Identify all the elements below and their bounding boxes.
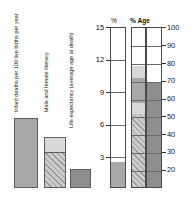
right-tick-30: 30 xyxy=(167,148,175,155)
age-hatched-segment-light-lower xyxy=(132,103,145,114)
bar-life-expectancy xyxy=(70,169,91,188)
left-tick-9: 9 xyxy=(92,89,104,96)
right-tickmark-100 xyxy=(162,27,166,28)
scale-header-percent-age: % Age xyxy=(130,17,150,24)
bar-label-infant-deaths: Infant deaths per 100 live births per ye… xyxy=(13,26,19,112)
right-tick-80: 80 xyxy=(167,60,175,67)
right-tickmark-30 xyxy=(162,152,166,153)
bar-literacy xyxy=(44,137,66,188)
age-solid-gridline-40 xyxy=(147,135,161,136)
age-hatched-gridline-20 xyxy=(132,171,145,172)
percent-scale-column xyxy=(110,27,126,188)
right-tickmark-80 xyxy=(162,63,166,64)
age-distribution-hatched-column xyxy=(131,27,146,188)
age-solid-gridline-50 xyxy=(147,117,161,118)
percent-gridline-9 xyxy=(111,92,125,93)
right-scale-chart: % % Age 15 12 9 6 3 xyxy=(96,0,192,200)
right-tick-90: 90 xyxy=(167,42,175,49)
age-hatched-gridline-90 xyxy=(132,46,145,47)
age-solid-gridline-90 xyxy=(147,46,161,47)
percent-gridline-12 xyxy=(111,60,125,61)
age-hatched-segment-light-upper xyxy=(132,66,145,79)
age-solid-gridline-30 xyxy=(147,153,161,154)
right-tick-50: 50 xyxy=(167,113,175,120)
right-tick-60: 60 xyxy=(167,95,175,102)
age-hatched-gridline-80 xyxy=(132,64,145,65)
chart-figure: Infant deaths per 100 live births per ye… xyxy=(0,0,192,200)
right-tickmark-50 xyxy=(162,116,166,117)
left-tick-6: 6 xyxy=(92,121,104,128)
bar-literacy-segment-lower xyxy=(44,152,66,188)
bar-label-life-expectancy: Life expectancy (average age at death) xyxy=(68,42,74,128)
bar-infant-deaths xyxy=(14,118,38,188)
right-tickmark-70 xyxy=(162,81,166,82)
age-solid-gridline-20 xyxy=(147,171,161,172)
right-tick-70: 70 xyxy=(167,77,175,84)
age-hatched-gridline-40 xyxy=(132,135,145,136)
left-tick-3: 3 xyxy=(92,154,104,161)
right-tickmark-20 xyxy=(162,170,166,171)
age-solid-segment-white xyxy=(147,28,161,82)
percent-gridline-3 xyxy=(111,157,125,158)
right-tickmark-40 xyxy=(162,134,166,135)
bar-literacy-segment-upper xyxy=(44,137,66,153)
age-hatched-gridline-70 xyxy=(132,82,145,83)
right-tick-100: 100 xyxy=(167,24,179,31)
age-hatched-segment-hatch xyxy=(132,114,145,187)
left-tick-15: 15 xyxy=(92,24,104,31)
left-tick-12: 12 xyxy=(92,56,104,63)
scale-header-percent: % xyxy=(111,17,117,24)
age-hatched-gridline-30 xyxy=(132,153,145,154)
age-hatched-segment-top-white xyxy=(132,28,145,66)
age-hatched-gridline-50 xyxy=(132,117,145,118)
percent-column-fill xyxy=(111,162,125,187)
age-distribution-solid-column xyxy=(146,27,162,188)
left-bar-chart: Infant deaths per 100 live births per ye… xyxy=(0,0,96,200)
age-solid-gridline-80 xyxy=(147,64,161,65)
right-tick-40: 40 xyxy=(167,131,175,138)
age-hatched-gridline-60 xyxy=(132,100,145,101)
right-tick-20: 20 xyxy=(167,166,175,173)
bar-label-literacy: Male and female literacy xyxy=(43,26,49,112)
right-tickmark-60 xyxy=(162,99,166,100)
right-tickmark-90 xyxy=(162,45,166,46)
age-solid-gridline-70 xyxy=(147,82,161,83)
age-solid-gridline-60 xyxy=(147,100,161,101)
percent-gridline-6 xyxy=(111,125,125,126)
